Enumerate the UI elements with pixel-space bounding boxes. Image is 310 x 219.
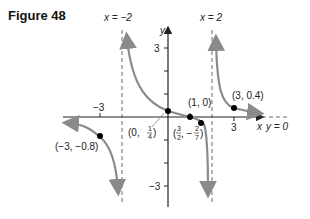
svg-text:, −: , − [181, 128, 193, 139]
curve-middle-branch-up [127, 38, 168, 111]
y-axis-label: y [159, 25, 166, 36]
x-tick-neg3: −3 [93, 102, 105, 113]
point-neg3 [97, 133, 103, 139]
asymptote-label-right: x = 2 [199, 12, 222, 23]
svg-text:(0,: (0, [128, 127, 140, 138]
svg-text:1: 1 [148, 125, 152, 132]
point-label-3: (3, 0.4) [232, 90, 264, 101]
svg-text:4: 4 [148, 133, 152, 140]
y-tick-3: 3 [154, 43, 160, 54]
point-label-0-quarter: (0, 1 4 ) [128, 125, 156, 140]
curve-left-branch [100, 137, 118, 190]
point-1-0 [187, 114, 193, 120]
svg-text:7: 7 [195, 134, 199, 141]
point-label-3half: ( 3 2 , − 2 7 ) [173, 125, 203, 141]
svg-text:2: 2 [195, 125, 199, 132]
point-label-neg3: (−3, −0.8) [55, 141, 98, 152]
leader-line [152, 113, 164, 127]
rational-function-graph: x = −2 x = 2 y 3 −3 −3 3 x y = 0 (−3, −0… [0, 0, 310, 219]
point-3 [231, 105, 237, 111]
point-label-1-0: (1, 0) [188, 97, 211, 108]
curve-right-branch-tail [234, 108, 258, 113]
point-0-quarter [165, 108, 171, 114]
asymptote-label-horiz: y = 0 [265, 121, 288, 132]
x-tick-3: 3 [231, 122, 237, 133]
svg-text:): ) [200, 128, 203, 139]
curve-left-branch-tail [68, 123, 100, 137]
asymptote-label-left: x = −2 [103, 12, 132, 23]
svg-text:): ) [153, 127, 156, 138]
x-axis-label: x [256, 121, 263, 132]
y-tick-neg3: −3 [149, 181, 161, 192]
